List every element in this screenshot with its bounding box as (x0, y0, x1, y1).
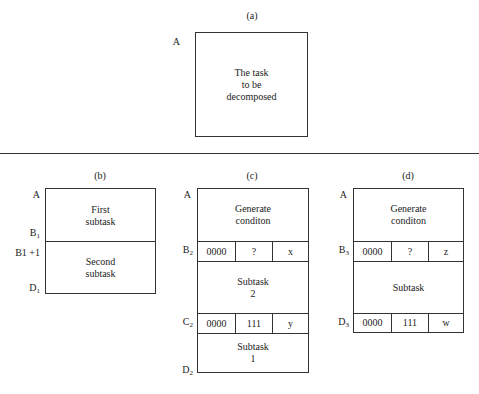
panel-b-caption: (b) (80, 170, 120, 181)
subtask-1: Subtask 1 (198, 334, 308, 372)
generate-line-2: conditon (391, 215, 426, 227)
subtask-2-line-2: 2 (251, 288, 256, 300)
row-c-cell-3: y (273, 314, 308, 333)
subtask-2: Subtask 2 (198, 262, 308, 313)
label-a: A (140, 37, 180, 47)
subtask-box: First subtask Second subtask (45, 188, 156, 294)
label-d3: D3 (309, 317, 349, 330)
second-subtask-line-2: subtask (86, 268, 116, 280)
label-d2-main: D (182, 364, 189, 375)
label-b3-main: B (339, 244, 346, 255)
row-b-cell-1: 0000 (354, 242, 391, 261)
row-d-cell-3: w (429, 314, 463, 332)
generate-condition: Generate conditon (198, 189, 308, 241)
panel-d-caption: (d) (388, 170, 428, 181)
label-b2-main: B (183, 244, 190, 255)
first-subtask-line-1: First (91, 204, 109, 216)
row-b-cell-3: x (273, 242, 308, 261)
second-subtask: Second subtask (46, 242, 155, 293)
task-line-1: The task (234, 67, 268, 79)
label-b3-sub: 3 (346, 249, 350, 257)
label-d2-sub: 2 (190, 369, 194, 377)
label-d2: D2 (153, 365, 193, 378)
label-d1: D1 (0, 283, 40, 296)
generate-condition: Generate conditon (354, 189, 463, 241)
subtask-1-line-2: 1 (251, 353, 256, 365)
label-a: A (307, 190, 347, 200)
label-d1-main: D (29, 282, 36, 293)
second-subtask-line-1: Second (86, 256, 115, 268)
first-subtask: First subtask (46, 189, 155, 242)
row-d-cell-1: 0000 (354, 314, 391, 332)
label-d1-sub: 1 (37, 287, 41, 295)
task-box: The task to be decomposed (195, 32, 308, 137)
subtask: Subtask (354, 262, 463, 313)
subtask-2-line-1: Subtask (237, 276, 269, 288)
row-b-cell-1: 0000 (198, 242, 235, 261)
label-b1-main: B (30, 227, 37, 238)
label-c2: C2 (153, 317, 193, 330)
label-b1-plus-1: B1 +1 (0, 248, 40, 258)
generate-line-1: Generate (235, 203, 271, 215)
generate-line-2: conditon (236, 215, 271, 227)
row-b-cell-2: ? (236, 242, 272, 261)
label-c2-main: C (183, 316, 190, 327)
subtask-1-line-1: Subtask (237, 341, 269, 353)
panel-c-caption: (c) (232, 170, 272, 181)
row-c-cell-2: 111 (236, 314, 272, 333)
label-b2-sub: 2 (190, 249, 194, 257)
label-a: A (0, 190, 40, 200)
row-d-cell-2: 111 (392, 314, 428, 332)
label-c2-sub: 2 (190, 321, 194, 329)
panel-a-caption: (a) (232, 10, 272, 21)
first-subtask-line-2: subtask (86, 216, 116, 228)
label-b3: B3 (309, 245, 349, 258)
row-c-cell-1: 0000 (198, 314, 235, 333)
task-text: The task to be decomposed (196, 33, 307, 136)
task-line-3: decomposed (227, 91, 277, 103)
label-b1-sub: 1 (37, 232, 41, 240)
row-b-cell-3: z (429, 242, 463, 261)
task-line-2: to be (242, 79, 262, 91)
generate-line-1: Generate (390, 203, 426, 215)
structure-box-d: Generate conditon 0000 ? z Subtask 0000 … (353, 188, 464, 333)
label-d3-main: D (338, 316, 345, 327)
row-b-cell-2: ? (392, 242, 428, 261)
label-b1: B1 (0, 228, 40, 241)
label-d3-sub: 3 (346, 321, 350, 329)
label-b2: B2 (153, 245, 193, 258)
separator-line (0, 153, 479, 154)
structure-box-c: Generate conditon 0000 ? x Subtask 2 000… (197, 188, 309, 373)
label-a: A (151, 190, 191, 200)
